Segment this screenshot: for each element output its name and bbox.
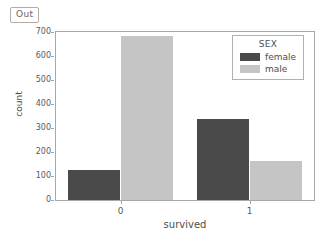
x-tick-mark xyxy=(121,201,122,204)
x-tick-label: 1 xyxy=(230,206,270,216)
y-tick-mark xyxy=(51,200,54,201)
legend-item-male: male xyxy=(240,63,296,75)
legend-swatch-male xyxy=(240,65,260,73)
y-tick-label: 600 xyxy=(21,52,51,60)
y-tick-mark xyxy=(51,32,54,33)
bar-male-1 xyxy=(250,161,303,200)
legend-swatch-female xyxy=(240,53,260,61)
out-prompt-label: Out xyxy=(10,7,39,23)
y-tick-label: 0 xyxy=(21,196,51,204)
y-tick-label: 500 xyxy=(21,76,51,84)
bar-male-0 xyxy=(121,36,174,200)
bar-female-1 xyxy=(197,119,250,200)
y-tick-label: 100 xyxy=(21,172,51,180)
y-tick-label: 700 xyxy=(21,28,51,36)
y-tick-mark xyxy=(51,152,54,153)
x-tick-label: 0 xyxy=(101,206,141,216)
y-tick-label: 300 xyxy=(21,124,51,132)
y-tick-mark xyxy=(51,104,54,105)
legend-entries: femalemale xyxy=(240,51,296,75)
x-tick-mark xyxy=(250,201,251,204)
legend-label-male: male xyxy=(265,64,287,74)
y-tick-label: 200 xyxy=(21,148,51,156)
x-axis: 01 xyxy=(55,201,315,217)
legend-label-female: female xyxy=(265,52,296,62)
bar-female-0 xyxy=(68,170,121,200)
legend: SEX femalemale xyxy=(232,35,304,80)
y-axis-label: count xyxy=(14,74,24,134)
y-tick-label: 400 xyxy=(21,100,51,108)
chart-figure: Out 0100200300400500600700 count 01 surv… xyxy=(0,0,335,239)
x-axis-label: survived xyxy=(55,219,315,230)
y-tick-mark xyxy=(51,128,54,129)
legend-item-female: female xyxy=(240,51,296,63)
y-tick-mark xyxy=(51,80,54,81)
legend-title: SEX xyxy=(240,39,296,49)
y-tick-mark xyxy=(51,176,54,177)
y-tick-mark xyxy=(51,56,54,57)
